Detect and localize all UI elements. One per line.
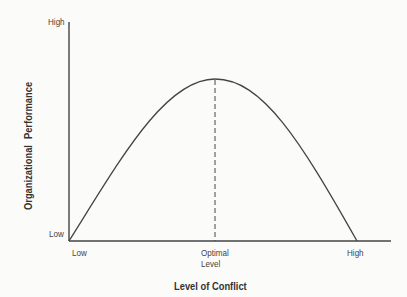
x-tick-optimal: Optimal [201, 247, 229, 258]
x-tick-low: Low [72, 247, 87, 258]
y-axis-title: Organizational Performance [22, 82, 34, 210]
y-tick-high: High [48, 16, 65, 27]
x-tick-optimal-line2: Level [201, 258, 220, 269]
y-tick-low: Low [49, 228, 64, 239]
x-axis-title: Level of Conflict [174, 280, 247, 292]
x-tick-high: High [347, 247, 364, 258]
performance-curve [69, 79, 357, 241]
